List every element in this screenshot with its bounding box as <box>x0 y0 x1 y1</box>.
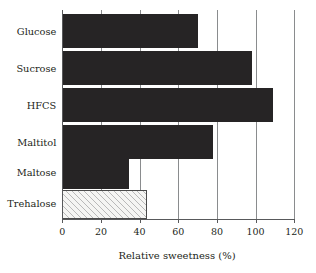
plot-area: 0 20 40 60 80 100 120 <box>62 10 294 219</box>
category-label-trehalose: Trehalose <box>7 198 56 209</box>
bar-glucose <box>62 14 197 48</box>
tick-mark-120 <box>294 219 295 223</box>
tick-mark-0 <box>62 219 63 223</box>
x-axis-title: Relative sweetness (%) <box>0 250 316 261</box>
tick-label-100: 100 <box>247 226 265 237</box>
relative-sweetness-bar-chart: Glucose Sucrose HFCS Maltitol Maltose Tr… <box>0 0 316 273</box>
tick-label-20: 20 <box>95 226 107 237</box>
tick-mark-60 <box>178 219 179 223</box>
category-label-hfcs: HFCS <box>27 100 57 111</box>
bar-maltitol <box>62 125 213 159</box>
bar-sucrose <box>62 51 252 85</box>
bar-trehalose <box>62 190 147 219</box>
tick-mark-80 <box>217 219 218 223</box>
tick-label-40: 40 <box>134 226 146 237</box>
tick-label-80: 80 <box>211 226 223 237</box>
tick-label-60: 60 <box>172 226 184 237</box>
category-axis-labels: Glucose Sucrose HFCS Maltitol Maltose Tr… <box>0 0 62 273</box>
category-label-glucose: Glucose <box>17 26 56 37</box>
bar-maltose <box>62 157 129 189</box>
tick-mark-100 <box>256 219 257 223</box>
y-axis-line <box>62 10 63 219</box>
gridline-120 <box>294 10 295 219</box>
tick-mark-20 <box>101 219 102 223</box>
tick-mark-40 <box>140 219 141 223</box>
category-label-maltitol: Maltitol <box>17 137 56 148</box>
bar-hfcs <box>62 88 273 122</box>
x-axis-title-text: Relative sweetness (%) <box>118 250 235 261</box>
tick-label-0: 0 <box>59 226 65 237</box>
category-label-sucrose: Sucrose <box>16 63 56 74</box>
category-label-maltose: Maltose <box>17 167 57 178</box>
tick-label-120: 120 <box>285 226 303 237</box>
